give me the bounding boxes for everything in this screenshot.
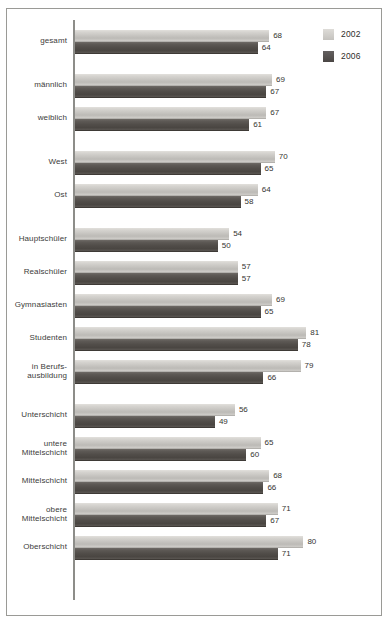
legend-item-2006: 2006 (323, 49, 361, 63)
legend-swatch-icon (323, 51, 334, 62)
bar-2002-12 (75, 437, 261, 449)
bar-value-label: 66 (267, 482, 276, 494)
chart-legend: 20022006 (323, 27, 361, 71)
category-label-line: Ost (7, 190, 67, 200)
bar-2002-15 (75, 536, 303, 548)
bar-value-label: 67 (270, 107, 279, 119)
legend-label: 2002 (341, 29, 361, 39)
bar-2002-9 (75, 327, 306, 339)
category-label-line: obere (7, 505, 67, 515)
bar-value-label: 68 (273, 30, 282, 42)
bar-2006-13 (75, 482, 263, 494)
bar-2006-9 (75, 339, 298, 351)
bar-value-label: 56 (239, 404, 248, 416)
category-label-10: in Berufs-ausbildung (7, 362, 67, 381)
bar-value-label: 71 (282, 503, 291, 515)
bar-2006-14 (75, 515, 266, 527)
bar-value-label: 81 (310, 327, 319, 339)
bar-value-label: 79 (305, 360, 314, 372)
category-label-5: Ost (7, 190, 67, 200)
bar-value-label: 69 (276, 294, 285, 306)
category-label-line: Mittelschicht (7, 448, 67, 458)
category-label-3: weiblich (7, 113, 67, 123)
bar-2006-12 (75, 449, 246, 461)
bar-value-label: 58 (245, 196, 254, 208)
bar-value-label: 78 (302, 339, 311, 351)
bar-2002-4 (75, 151, 275, 163)
bar-2002-6 (75, 228, 229, 240)
category-label-9: Studenten (7, 333, 67, 343)
bar-2006-11 (75, 416, 215, 428)
category-label-8: Gymnasiasten (7, 300, 67, 310)
bar-2002-13 (75, 470, 269, 482)
bar-value-label: 70 (279, 151, 288, 163)
category-label-line: weiblich (7, 113, 67, 123)
category-label-line: Studenten (7, 333, 67, 343)
bar-value-label: 66 (267, 372, 276, 384)
bar-value-label: 57 (242, 261, 251, 273)
category-label-14: obereMittelschicht (7, 505, 67, 524)
bar-value-label: 61 (253, 119, 262, 131)
category-label-15: Oberschicht (7, 542, 67, 552)
category-label-12: untereMittelschicht (7, 439, 67, 458)
bar-2006-7 (75, 273, 238, 285)
bar-2006-1 (75, 42, 258, 54)
bar-value-label: 65 (265, 163, 274, 175)
category-label-line: Hauptschüler (7, 234, 67, 244)
category-label-line: Oberschicht (7, 542, 67, 552)
bar-2006-5 (75, 196, 241, 208)
bar-2002-11 (75, 404, 235, 416)
bar-value-label: 50 (222, 240, 231, 252)
category-label-line: untere (7, 439, 67, 449)
category-label-line: ausbildung (7, 371, 67, 381)
bar-value-label: 80 (307, 536, 316, 548)
bar-value-label: 69 (276, 74, 285, 86)
legend-label: 2006 (341, 51, 361, 61)
bar-2002-5 (75, 184, 258, 196)
category-label-2: männlich (7, 80, 67, 90)
bar-2006-10 (75, 372, 263, 384)
bar-2002-7 (75, 261, 238, 273)
bar-value-label: 65 (265, 306, 274, 318)
bar-2006-3 (75, 119, 249, 131)
bar-value-label: 65 (265, 437, 274, 449)
bar-2002-10 (75, 360, 301, 372)
bar-value-label: 64 (262, 184, 271, 196)
bar-value-label: 71 (282, 548, 291, 560)
legend-item-2002: 2002 (323, 27, 361, 41)
legend-swatch-icon (323, 29, 334, 40)
chart-plot-area: 6864696767617065645854505757696581787966… (7, 9, 381, 615)
category-label-line: Mittelschicht (7, 476, 67, 486)
category-label-line: gesamt (7, 36, 67, 46)
bar-value-label: 64 (262, 42, 271, 54)
bar-2006-2 (75, 86, 266, 98)
chart-frame: 6864696767617065645854505757696581787966… (6, 8, 382, 616)
bar-value-label: 57 (242, 273, 251, 285)
bar-2006-6 (75, 240, 218, 252)
bar-value-label: 67 (270, 515, 279, 527)
bar-2002-3 (75, 107, 266, 119)
bar-value-label: 60 (250, 449, 259, 461)
category-label-line: West (7, 157, 67, 167)
category-label-6: Hauptschüler (7, 234, 67, 244)
category-label-line: Mittelschicht (7, 514, 67, 524)
category-label-13: Mittelschicht (7, 476, 67, 486)
category-label-7: Realschüler (7, 267, 67, 277)
category-label-1: gesamt (7, 36, 67, 46)
bar-2006-15 (75, 548, 278, 560)
category-label-line: Realschüler (7, 267, 67, 277)
bar-2006-4 (75, 163, 261, 175)
category-label-line: Gymnasiasten (7, 300, 67, 310)
bar-value-label: 49 (219, 416, 228, 428)
category-label-line: Unterschicht (7, 410, 67, 420)
bar-value-label: 54 (233, 228, 242, 240)
category-label-11: Unterschicht (7, 410, 67, 420)
category-label-line: in Berufs- (7, 362, 67, 372)
bar-2002-8 (75, 294, 272, 306)
bar-value-label: 67 (270, 86, 279, 98)
category-label-line: männlich (7, 80, 67, 90)
bar-value-label: 68 (273, 470, 282, 482)
bar-2002-14 (75, 503, 278, 515)
bar-2006-8 (75, 306, 261, 318)
bar-2002-2 (75, 74, 272, 86)
